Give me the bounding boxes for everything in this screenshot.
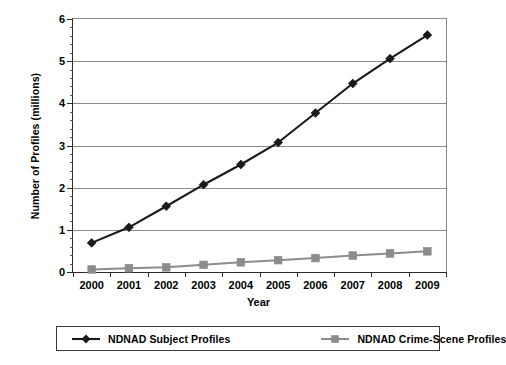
x-axis-tick-label: 2008 — [378, 279, 402, 291]
y-axis-tick-label: 5 — [59, 55, 65, 67]
x-axis-tick-label: 2005 — [266, 279, 290, 291]
y-axis-tick-label: 3 — [59, 140, 65, 152]
x-axis-tick — [371, 272, 372, 277]
y-axis-tick-label: 4 — [59, 97, 65, 109]
x-axis-tick-label: 2004 — [229, 279, 253, 291]
y-axis-tick-label: 6 — [59, 13, 65, 25]
data-point-diamond-marker — [162, 202, 171, 211]
x-axis-title: Year — [72, 296, 445, 308]
x-axis-tick-label: 2009 — [415, 279, 439, 291]
legend-label-subject-profiles: NDNAD Subject Profiles — [108, 333, 230, 345]
diamond-marker-icon — [71, 332, 101, 346]
x-axis-tick — [185, 272, 186, 277]
square-marker-icon — [320, 332, 350, 346]
data-point-square-marker — [312, 254, 320, 262]
data-point-square-marker — [200, 261, 208, 269]
data-point-square-marker — [162, 264, 170, 272]
x-axis-tick — [409, 272, 410, 277]
x-axis-tick — [73, 272, 74, 277]
series-line — [92, 35, 428, 243]
series-subject-profiles — [87, 31, 432, 248]
x-axis-tick-label: 2001 — [117, 279, 141, 291]
y-axis-title: Number of Profiles (millions) — [29, 26, 41, 266]
y-axis-tick-label: 2 — [59, 182, 65, 194]
x-axis-tick — [334, 272, 335, 277]
data-point-square-marker — [424, 248, 432, 256]
data-point-diamond-marker — [236, 160, 245, 169]
x-axis-tick-label: 2000 — [79, 279, 103, 291]
y-axis-tick-label: 1 — [59, 224, 65, 236]
x-axis-tick-label: 2006 — [303, 279, 327, 291]
data-point-diamond-marker — [125, 223, 134, 232]
data-point-square-marker — [88, 266, 96, 274]
data-series-layer — [73, 19, 446, 272]
chart-legend: NDNAD Subject Profiles NDNAD Crime-Scene… — [56, 326, 440, 351]
x-axis-tick-label: 2003 — [191, 279, 215, 291]
data-point-diamond-marker — [87, 239, 96, 248]
x-axis-tick — [260, 272, 261, 277]
legend-item-crime-scene-profiles: NDNAD Crime-Scene Profiles — [320, 332, 506, 346]
x-axis-tick — [148, 272, 149, 277]
legend-label-crime-scene-profiles: NDNAD Crime-Scene Profiles — [357, 333, 506, 345]
data-point-square-marker — [349, 252, 357, 260]
x-axis-tick-label: 2002 — [154, 279, 178, 291]
series-crime-scene-profiles — [88, 248, 431, 274]
x-axis-tick — [297, 272, 298, 277]
y-axis-tick-label: 0 — [59, 266, 65, 278]
legend-item-subject-profiles: NDNAD Subject Profiles — [71, 332, 230, 346]
x-axis-tick — [110, 272, 111, 277]
x-axis-tick — [222, 272, 223, 277]
x-axis-tick — [446, 272, 447, 277]
plot-area: 0123456 20002001200220032004200520062007… — [72, 18, 447, 273]
x-axis-tick-label: 2007 — [341, 279, 365, 291]
series-line — [92, 251, 428, 269]
data-point-square-marker — [237, 259, 245, 267]
data-point-diamond-marker — [199, 180, 208, 189]
data-point-square-marker — [274, 256, 282, 264]
data-point-square-marker — [386, 250, 394, 258]
data-point-square-marker — [125, 264, 133, 272]
